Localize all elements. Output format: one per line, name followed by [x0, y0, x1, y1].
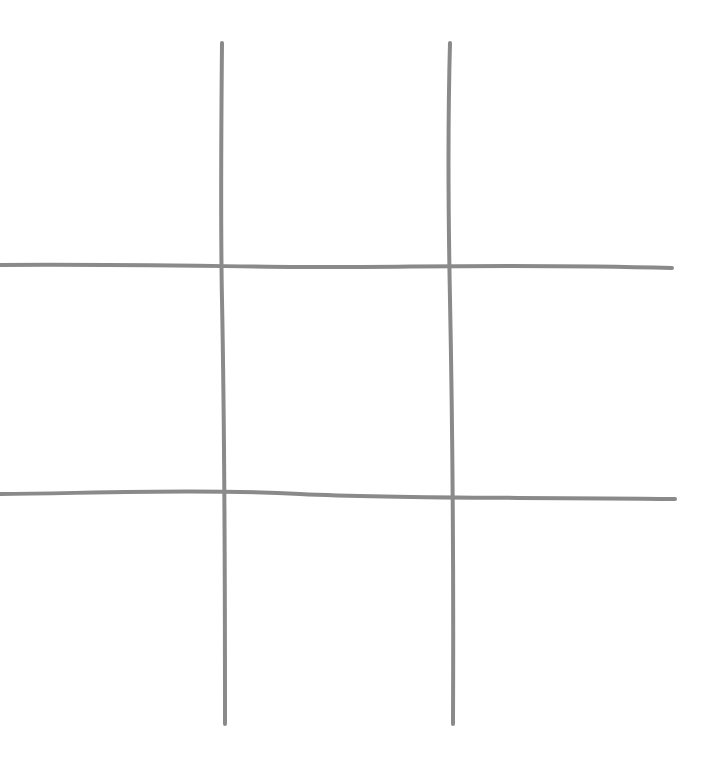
cell-1-2[interactable]: [455, 269, 675, 492]
cell-1-1[interactable]: [226, 269, 450, 492]
cell-2-0[interactable]: [0, 498, 223, 724]
cell-0-2[interactable]: [452, 43, 672, 265]
tic-tac-toe-board: [0, 0, 710, 766]
cell-2-2[interactable]: [456, 498, 676, 724]
cell-2-1[interactable]: [227, 498, 451, 724]
cell-0-0[interactable]: [0, 43, 220, 265]
cell-1-0[interactable]: [0, 269, 222, 492]
grid-line-horizontal-top: [0, 265, 672, 268]
cell-0-1[interactable]: [224, 43, 448, 265]
